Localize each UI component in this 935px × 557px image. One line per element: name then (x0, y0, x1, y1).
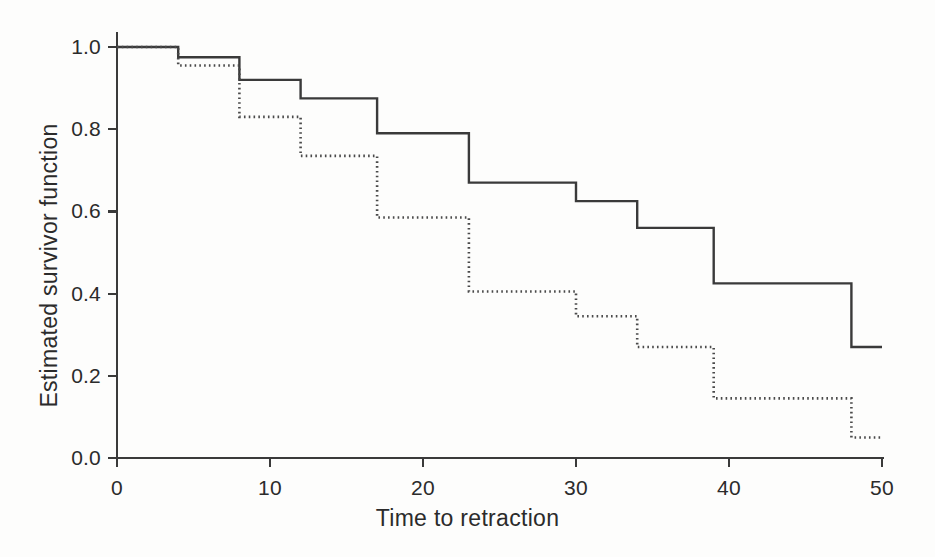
plot-canvas (0, 0, 935, 557)
x-tick-label: 40 (717, 476, 741, 500)
x-tick-label: 50 (870, 476, 894, 500)
y-tick-label: 0.2 (71, 364, 101, 388)
x-tick-label: 0 (111, 476, 123, 500)
series-dotted-curve (117, 47, 882, 437)
y-tick-label: 0.0 (71, 446, 101, 470)
tick-marks (108, 47, 882, 467)
y-tick-label: 0.4 (71, 282, 101, 306)
x-tick-label: 30 (564, 476, 588, 500)
x-axis-title: Time to retraction (0, 505, 935, 532)
y-tick-label: 1.0 (71, 35, 101, 59)
series-solid-curve (117, 47, 882, 347)
x-tick-label: 10 (258, 476, 282, 500)
x-tick-label: 20 (411, 476, 435, 500)
y-tick-label: 0.6 (71, 199, 101, 223)
survival-chart-figure: 0.00.20.40.60.81.0 01020304050 Time to r… (0, 0, 935, 557)
y-axis-title: Estimated survivor function (36, 66, 63, 466)
axis-lines (117, 32, 884, 458)
y-tick-label: 0.8 (71, 117, 101, 141)
series-paths (117, 47, 882, 437)
